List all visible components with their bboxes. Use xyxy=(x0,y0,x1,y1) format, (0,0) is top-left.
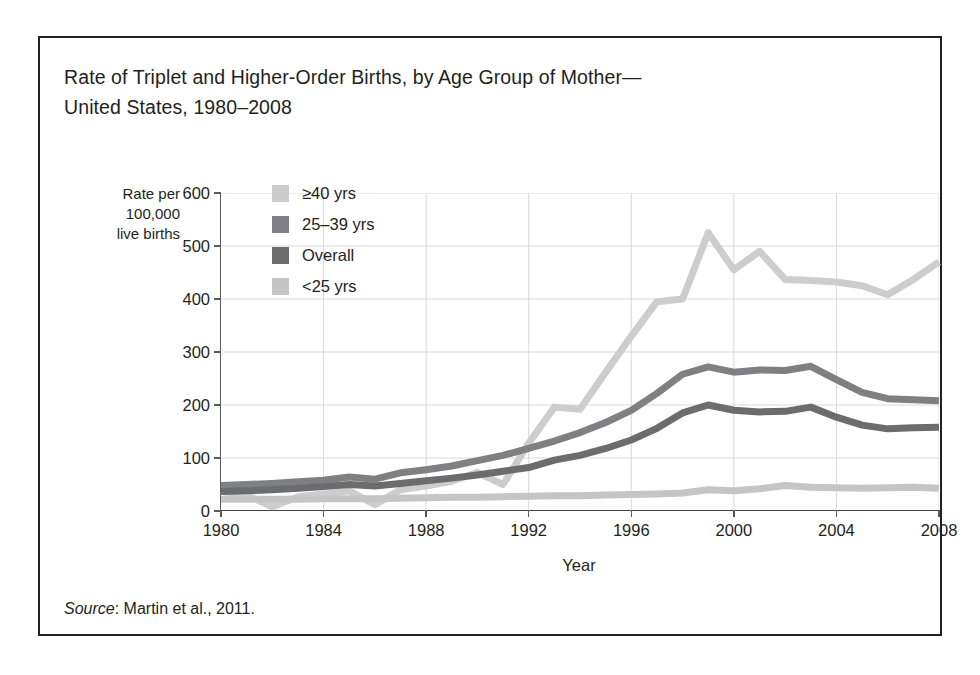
y-tick-mark xyxy=(214,457,221,459)
legend-swatch-ge40 xyxy=(272,185,289,202)
x-tick-label: 1996 xyxy=(613,521,650,540)
legend-swatch-25-39 xyxy=(272,216,289,233)
legend-swatch-overall xyxy=(272,247,289,264)
y-tick-mark xyxy=(214,245,221,247)
x-axis-title: Year xyxy=(220,556,938,575)
y-tick-label: 400 xyxy=(182,290,210,309)
y-tick-label: 100 xyxy=(182,449,210,468)
x-tick-label: 1980 xyxy=(203,521,240,540)
x-tick-mark xyxy=(528,510,530,517)
legend-label-25-39: 25–39 yrs xyxy=(302,215,374,234)
source-note: Source: Martin et al., 2011. xyxy=(64,600,255,618)
y-tick-label: 500 xyxy=(182,237,210,256)
x-tick-mark xyxy=(938,510,940,517)
y-tick-mark xyxy=(214,404,221,406)
x-tick-label: 2004 xyxy=(818,521,855,540)
x-tick-label: 2008 xyxy=(921,521,958,540)
legend-item: 25–39 yrs xyxy=(272,209,452,240)
x-tick-mark xyxy=(631,510,633,517)
legend-label-ge40: ≥40 yrs xyxy=(302,184,356,203)
figure-frame: Rate of Triplet and Higher-Order Births,… xyxy=(38,36,942,636)
legend-swatch-lt25 xyxy=(272,278,289,295)
source-label: Source xyxy=(64,600,115,617)
y-tick-label: 0 xyxy=(201,502,210,521)
x-tick-mark xyxy=(836,510,838,517)
legend-item: <25 yrs xyxy=(272,271,452,302)
legend-label-lt25: <25 yrs xyxy=(302,277,357,296)
x-tick-label: 2000 xyxy=(715,521,752,540)
x-tick-mark xyxy=(733,510,735,517)
y-tick-label: 600 xyxy=(182,184,210,203)
legend-item: Overall xyxy=(272,240,452,271)
x-tick-mark xyxy=(220,510,222,517)
y-tick-label: 300 xyxy=(182,343,210,362)
legend-label-overall: Overall xyxy=(302,246,354,265)
chart-area: Rate per 100,000 live births 01002003004… xyxy=(40,148,940,578)
figure-title: Rate of Triplet and Higher-Order Births,… xyxy=(64,62,894,122)
x-tick-label: 1988 xyxy=(408,521,445,540)
x-tick-mark xyxy=(425,510,427,517)
y-tick-mark xyxy=(214,351,221,353)
y-tick-mark xyxy=(214,298,221,300)
y-tick-mark xyxy=(214,192,221,194)
x-tick-label: 1992 xyxy=(510,521,547,540)
legend-item: ≥40 yrs xyxy=(272,178,452,209)
series-line xyxy=(221,366,939,485)
y-tick-label: 200 xyxy=(182,396,210,415)
source-text: : Martin et al., 2011. xyxy=(115,600,255,617)
x-tick-label: 1984 xyxy=(305,521,342,540)
x-tick-mark xyxy=(323,510,325,517)
chart-legend: ≥40 yrs 25–39 yrs Overall <25 yrs xyxy=(272,178,452,302)
y-axis-title: Rate per 100,000 live births xyxy=(60,184,180,244)
